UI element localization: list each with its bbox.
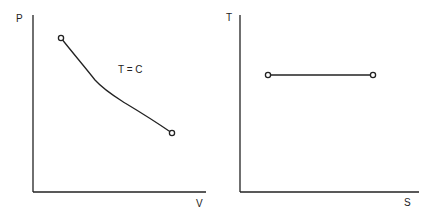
ts-y-axis-label: T bbox=[226, 12, 232, 23]
state-point-end bbox=[169, 130, 174, 135]
ts-x-axis-label: S bbox=[404, 197, 411, 208]
ts-state-point-start bbox=[265, 72, 270, 77]
pv-diagram: P V T = C bbox=[16, 13, 206, 209]
ts-state-point-end bbox=[370, 72, 375, 77]
ts-diagram: T S bbox=[226, 12, 419, 208]
pv-curve-label: T = C bbox=[118, 64, 143, 75]
isotherm-curve bbox=[61, 38, 172, 133]
pv-x-axis-label: V bbox=[196, 198, 203, 209]
state-point-start bbox=[58, 35, 63, 40]
pv-y-axis-label: P bbox=[16, 13, 23, 24]
diagram-canvas: P V T = C T S bbox=[0, 0, 432, 218]
